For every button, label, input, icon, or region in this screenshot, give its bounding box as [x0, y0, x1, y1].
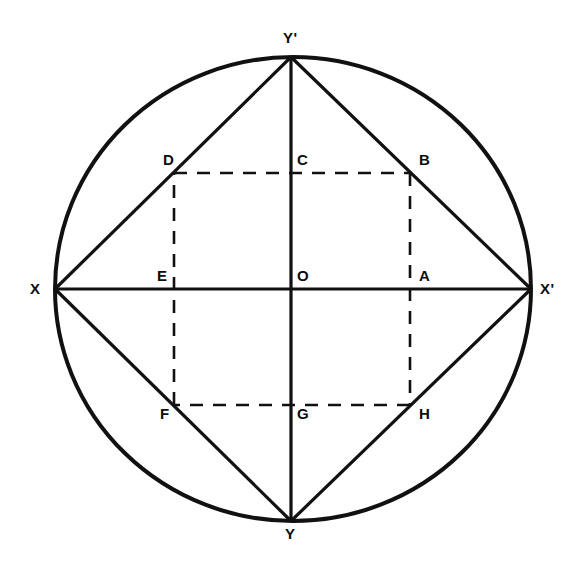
figure-canvas: [0, 0, 587, 568]
point-label-x-prime-text: X: [540, 280, 551, 297]
point-label-e-text: E: [157, 267, 168, 284]
point-label-a-text: A: [419, 267, 430, 284]
point-label-f-text: F: [160, 405, 170, 422]
point-label-o-text: O: [297, 267, 309, 284]
point-label-y-prime: Y': [283, 30, 298, 45]
point-label-d: D: [163, 152, 174, 167]
point-label-b-text: B: [419, 151, 430, 168]
point-label-g: G: [297, 406, 309, 421]
point-label-e: E: [157, 268, 168, 283]
point-label-d-text: D: [163, 151, 174, 168]
point-label-x-text: X: [30, 280, 41, 297]
point-label-g-text: G: [297, 405, 309, 422]
point-label-y-prime-prime-mark: ': [294, 29, 298, 46]
point-label-o: O: [297, 268, 309, 283]
point-label-a: A: [419, 268, 430, 283]
point-label-x-prime-prime-mark: ': [551, 280, 555, 297]
point-label-y-text: Y: [285, 525, 296, 542]
point-label-f: F: [160, 406, 170, 421]
geometry-figure: Y'XX'YDCBEOAFGH: [0, 0, 587, 568]
point-label-y: Y: [285, 526, 296, 541]
point-label-c: C: [297, 152, 308, 167]
point-label-h: H: [419, 406, 430, 421]
point-label-x: X: [30, 281, 41, 296]
point-label-c-text: C: [297, 151, 308, 168]
point-label-y-prime-text: Y: [283, 29, 294, 46]
point-label-b: B: [419, 152, 430, 167]
point-label-h-text: H: [419, 405, 430, 422]
point-label-x-prime: X': [540, 281, 555, 296]
